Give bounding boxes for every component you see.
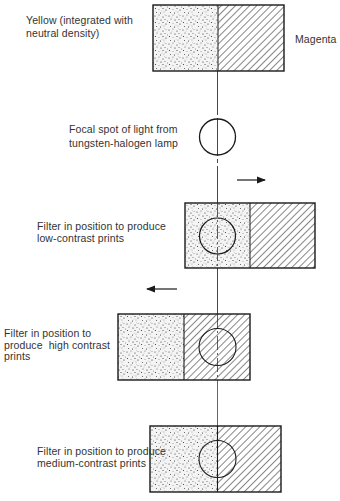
- yellow-filter-label: Yellow (integrated with neutral density): [26, 14, 133, 39]
- low-contrast-filter-box: [185, 203, 315, 268]
- medium-contrast-label: Filter in position to produce medium-con…: [37, 446, 166, 469]
- low-contrast-label: Filter in position to produce low-contra…: [37, 221, 166, 244]
- filter-legend-box: [153, 5, 284, 71]
- magenta-hatch-region: [218, 5, 284, 71]
- magenta-filter-label: Magenta: [295, 33, 337, 45]
- yellow-nd-stipple-region: [153, 5, 218, 71]
- high-contrast-filter-box: [118, 314, 250, 380]
- filter-diagram: [0, 0, 340, 501]
- high-contrast-label: Filter in position to produce high contr…: [4, 328, 110, 363]
- focal-spot-label: Focal spot of light from tungsten-haloge…: [69, 122, 178, 150]
- medium-contrast-filter-box: [150, 426, 281, 492]
